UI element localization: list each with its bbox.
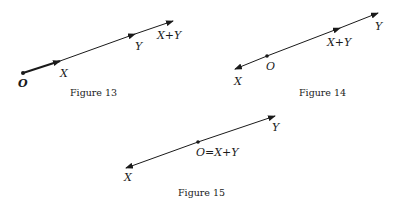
label-origin: O: [266, 60, 275, 73]
label-origin: O: [18, 77, 28, 90]
vector-x-arrow: [23, 61, 60, 73]
vector-y-arrow: [198, 116, 275, 142]
label-origin-sum: O=X+Y: [196, 146, 240, 159]
caption: Figure 13: [70, 87, 117, 98]
figure-15: X O=X+Y Y Figure 15: [123, 116, 281, 198]
vector-x-arrow: [126, 142, 198, 168]
label-x: X: [233, 75, 243, 88]
label-sum: X+Y: [156, 29, 183, 42]
origin-dot: [21, 71, 25, 75]
figure-13: O X Y X+Y Figure 13: [18, 21, 183, 98]
vector-y-arrow: [340, 13, 378, 28]
vector-addition-figures: O X Y X+Y Figure 13 X O X+Y Y Figure 14 …: [0, 0, 401, 206]
vector-x-arrow: [235, 56, 267, 69]
label-x: X: [59, 67, 69, 80]
caption: Figure 15: [178, 187, 225, 198]
label-y: Y: [375, 20, 384, 33]
caption: Figure 14: [299, 87, 346, 98]
label-y: Y: [272, 121, 281, 134]
origin-dot: [196, 140, 200, 144]
figure-14: X O X+Y Y Figure 14: [233, 13, 384, 98]
label-x: X: [123, 171, 133, 184]
vector-y-arrow: [60, 34, 135, 61]
origin-dot: [265, 54, 269, 58]
label-y: Y: [135, 40, 144, 53]
label-sum: X+Y: [326, 36, 353, 49]
